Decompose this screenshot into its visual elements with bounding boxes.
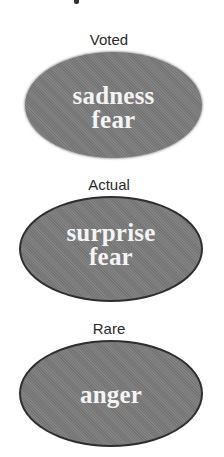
voted-emotion-1: sadness [73, 84, 155, 108]
actual-emotion-2: fear [89, 245, 133, 269]
voted-label: Voted [0, 32, 218, 48]
actual-emotion-1: surprise [66, 221, 155, 245]
actual-label: Actual [0, 177, 218, 193]
voted-emotion-2: fear [92, 108, 136, 132]
cropped-glyph-fragment [74, 0, 79, 4]
voted-ellipse: sadness fear [25, 52, 202, 158]
rare-ellipse: anger [19, 340, 203, 447]
actual-ellipse: surprise fear [19, 196, 203, 302]
rare-emotion-1: anger [80, 383, 142, 407]
rare-label: Rare [0, 321, 218, 337]
